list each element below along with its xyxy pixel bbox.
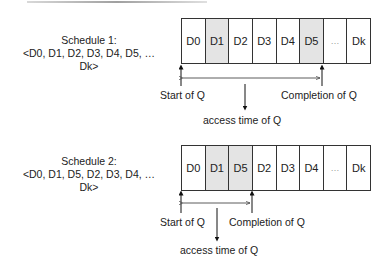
- arrows-overlay: [0, 0, 383, 271]
- schedule-2-arrows: [181, 193, 252, 239]
- schedule-1-arrows: [181, 67, 322, 108]
